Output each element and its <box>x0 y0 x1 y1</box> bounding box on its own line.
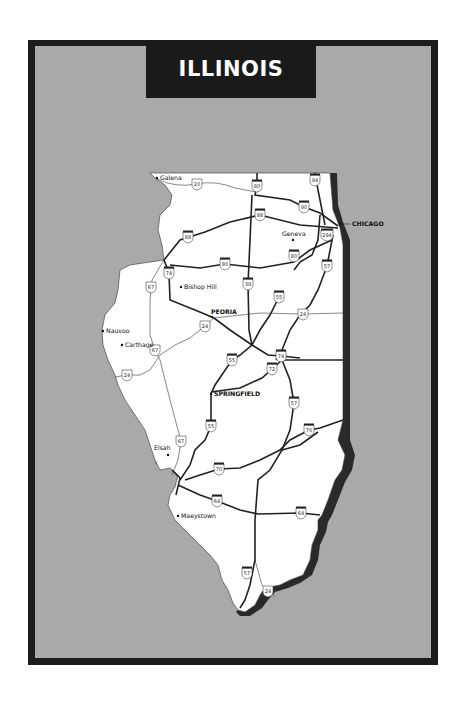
shield-label: 55 <box>229 357 235 363</box>
shield-label: 80 <box>291 253 297 259</box>
city-label: Bishop Hill <box>184 283 217 291</box>
city-label: CHICAGO <box>352 220 384 227</box>
city-galena: Galena <box>156 174 182 181</box>
shield-label: 64 <box>298 510 304 516</box>
interstate-shield-55: 55 <box>227 354 237 367</box>
interstate-shield-72: 72 <box>267 363 277 376</box>
city-dot-icon <box>180 286 182 288</box>
shield-label: 39 <box>245 281 251 287</box>
shield-label: 57 <box>291 400 297 406</box>
shield-label: 20 <box>194 181 200 187</box>
city-dot-icon <box>339 223 341 225</box>
interstate-shield-70: 70 <box>214 463 224 476</box>
interstate-shield-55: 55 <box>274 291 284 304</box>
city-label: Geneva <box>282 230 306 237</box>
shield-label: 24 <box>124 372 130 378</box>
interstate-shield-94: 94 <box>310 174 320 187</box>
interstate-shield-55: 55 <box>206 420 216 433</box>
city-label: Elsah <box>154 444 171 451</box>
interstate-shield-57: 57 <box>242 567 252 580</box>
interstate-shield-90: 90 <box>299 201 309 214</box>
city-dot-icon <box>121 344 123 346</box>
title-banner: ILLINOIS <box>146 40 316 98</box>
interstate-shield-88: 88 <box>255 209 265 222</box>
us-route-shield-24: 24 <box>263 586 273 597</box>
shield-label: 24 <box>265 588 271 594</box>
interstate-shield-88: 88 <box>183 231 193 244</box>
map-title: ILLINOIS <box>179 57 284 81</box>
shield-label: 67 <box>178 438 184 444</box>
shield-label: 80 <box>254 183 260 189</box>
interstate-shield-57: 57 <box>322 260 332 273</box>
illinois-map: 2080949088882948080577467395524246755747… <box>0 0 457 701</box>
interstate-shield-294: 294 <box>321 229 333 242</box>
us-route-shield-67: 67 <box>146 282 156 293</box>
shield-label: 55 <box>276 294 282 300</box>
shield-label: 74 <box>278 353 284 359</box>
city-dot-icon <box>210 393 212 395</box>
interstate-shield-57: 57 <box>289 397 299 410</box>
shield-label: 72 <box>269 366 275 372</box>
city-dot-icon <box>156 177 158 179</box>
shield-label: 88 <box>257 212 263 218</box>
shield-label: 24 <box>300 311 306 317</box>
city-label: SPRINGFIELD <box>214 390 260 397</box>
shield-label: 55 <box>208 423 214 429</box>
city-maeystown: Maeystown <box>177 512 216 520</box>
city-dot-icon <box>292 239 294 241</box>
city-chicago: CHICAGO <box>339 220 384 227</box>
interstate-shield-70: 70 <box>304 424 314 437</box>
us-route-shield-20: 20 <box>192 179 202 190</box>
shield-label: 94 <box>312 177 318 183</box>
shield-label: 70 <box>216 466 222 472</box>
city-bishop-hill: Bishop Hill <box>180 283 217 291</box>
city-nauvoo: Nauvoo <box>102 327 130 334</box>
city-dot-icon <box>102 330 104 332</box>
shield-label: 294 <box>322 232 332 238</box>
shield-label: 24 <box>202 323 208 329</box>
city-springfield: SPRINGFIELD <box>210 390 260 397</box>
us-route-shield-67: 67 <box>176 436 186 447</box>
us-route-shield-24: 24 <box>122 370 132 381</box>
interstate-shield-64: 64 <box>296 507 306 520</box>
shield-label: 74 <box>166 270 172 276</box>
city-dot-icon <box>167 454 169 456</box>
city-label: Carthage <box>125 341 154 349</box>
city-label: Nauvoo <box>106 327 130 334</box>
shield-label: 57 <box>244 570 250 576</box>
shield-label: 70 <box>306 427 312 433</box>
interstate-shield-80: 80 <box>289 250 299 263</box>
city-dot-icon <box>177 515 179 517</box>
shield-label: 64 <box>214 498 220 504</box>
shield-label: 80 <box>222 261 228 267</box>
interstate-shield-74: 74 <box>164 267 174 280</box>
shield-label: 90 <box>301 204 307 210</box>
us-route-shield-24: 24 <box>298 309 308 320</box>
shield-label: 57 <box>324 263 330 269</box>
interstate-shield-39: 39 <box>243 278 253 291</box>
shield-label: 67 <box>148 284 154 290</box>
city-carthage: Carthage <box>121 341 154 349</box>
interstate-shield-80: 80 <box>220 258 230 271</box>
city-label: Maeystown <box>181 512 216 520</box>
interstate-shield-74: 74 <box>276 350 286 363</box>
shield-label: 88 <box>185 234 191 240</box>
city-dot-icon <box>211 316 213 318</box>
us-route-shield-24: 24 <box>200 321 210 332</box>
city-label: Galena <box>160 174 182 181</box>
city-label: PEORIA <box>211 308 237 315</box>
interstate-shield-64: 64 <box>212 495 222 508</box>
interstate-shield-80: 80 <box>252 180 262 193</box>
